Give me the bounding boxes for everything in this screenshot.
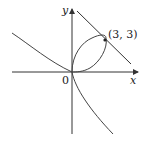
origin-label: 0	[62, 74, 69, 87]
folium-branch-lower	[72, 72, 113, 134]
x-axis-label: x	[130, 74, 137, 87]
point-label: (3, 3)	[108, 28, 138, 41]
folium-branch-left	[12, 33, 72, 72]
folium-loop	[72, 35, 106, 72]
folium-diagram: y x 0 (3, 3)	[0, 0, 144, 146]
y-axis-label: y	[61, 4, 69, 17]
tangent-point	[103, 38, 106, 41]
